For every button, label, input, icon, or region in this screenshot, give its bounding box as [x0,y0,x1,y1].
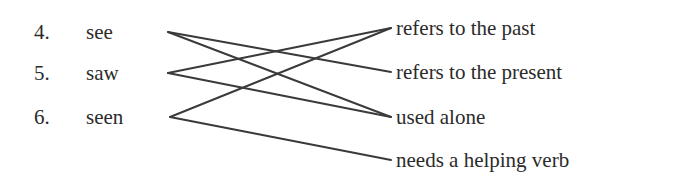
list-item[interactable]: needs a helping verb [396,145,569,175]
item-label: used alone [396,107,485,128]
item-number: 4. [0,22,72,43]
item-number: 6. [0,107,72,128]
match-line [168,32,391,72]
list-item[interactable]: refers to the past [396,13,535,43]
item-label: needs a helping verb [396,150,569,171]
item-label: seen [72,107,123,128]
item-number: 5. [0,63,72,84]
list-item[interactable]: 5. saw [0,58,170,88]
left-column: 4. see 5. saw 6. seen [0,0,170,185]
right-column: refers to the past refers to the present… [396,0,693,185]
match-line [170,28,391,117]
list-item[interactable]: used alone [396,102,485,132]
match-line [168,28,391,73]
item-label: refers to the present [396,62,562,83]
match-line [170,117,391,160]
list-item[interactable]: refers to the present [396,57,562,87]
match-line [168,73,391,117]
list-item[interactable]: 4. see [0,17,170,47]
item-label: refers to the past [396,18,535,39]
item-label: saw [72,63,119,84]
list-item[interactable]: 6. seen [0,102,170,132]
match-line [168,32,391,117]
matching-exercise: 4. see 5. saw 6. seen refers to the past… [0,0,693,185]
item-label: see [72,22,113,43]
